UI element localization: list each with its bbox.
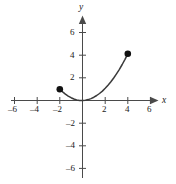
y-tick-label-4: 4 bbox=[70, 51, 75, 60]
y-axis-label: y bbox=[79, 3, 83, 13]
coordinate-plot bbox=[0, 0, 176, 184]
x-tick-label-neg6: –6 bbox=[8, 105, 17, 114]
y-axis-arrowhead bbox=[79, 16, 86, 25]
y-tick-label-neg6: –6 bbox=[66, 164, 75, 173]
x-tick-label-neg2: –2 bbox=[53, 105, 62, 114]
y-tick-label-neg4: –4 bbox=[66, 141, 75, 150]
x-tick-label-6: 6 bbox=[147, 105, 152, 114]
x-tick-label-neg4: –4 bbox=[30, 105, 39, 114]
y-tick-label-6: 6 bbox=[70, 28, 75, 37]
x-tick-label-4: 4 bbox=[125, 105, 130, 114]
endpoint-marker-right bbox=[125, 51, 132, 58]
y-tick-label-neg2: –2 bbox=[66, 119, 75, 128]
x-axis-label: x bbox=[162, 96, 166, 106]
endpoint-marker-left bbox=[57, 86, 64, 93]
x-tick-label-2: 2 bbox=[102, 105, 107, 114]
y-tick-label-2: 2 bbox=[70, 73, 75, 82]
graph-figure: –6 –4 –2 2 4 6 6 4 2 –2 –4 –6 x y bbox=[0, 0, 176, 184]
